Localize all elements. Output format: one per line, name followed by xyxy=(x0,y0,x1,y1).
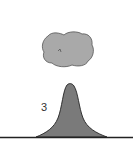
diagram-canvas: 3 xyxy=(0,0,133,144)
diagram-label: 3 xyxy=(41,101,47,113)
cloud-shape xyxy=(42,32,93,67)
